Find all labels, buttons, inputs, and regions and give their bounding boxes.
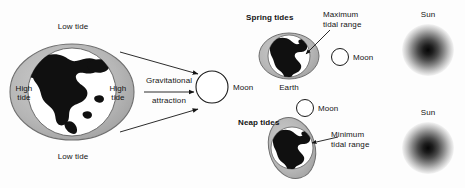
sun-sphere-neap <box>402 122 454 174</box>
label-high-tide-left-line2: tide <box>10 93 38 103</box>
sun-sphere-spring <box>402 24 454 76</box>
spring-earth-group <box>259 30 330 86</box>
label-moon-neap: Moon <box>318 104 338 114</box>
label-max-range-line1: Maximum <box>323 10 358 20</box>
label-low-tide-top: Low tide <box>42 22 104 32</box>
label-min-range-line1: Minimum <box>331 130 364 140</box>
label-max-range-line2: tidal range <box>323 20 361 30</box>
label-moon-left: Moon <box>233 83 253 93</box>
label-spring-tides-title: Spring tides <box>246 13 293 23</box>
label-sun-spring: Sun <box>410 10 446 20</box>
label-earth: Earth <box>268 83 310 93</box>
label-min-range-line2: tidal range <box>331 140 369 150</box>
moon-circle-left <box>196 71 228 103</box>
label-gravitational-line2: attraction <box>141 96 197 106</box>
moon-circle-spring <box>332 49 349 66</box>
gravity-arrow-top <box>120 52 198 74</box>
gravity-arrow-bottom <box>120 109 198 132</box>
label-moon-spring: Moon <box>353 53 373 63</box>
label-neap-tides-title: Neap tides <box>238 118 279 128</box>
label-high-tide-right-line2: tide <box>104 93 132 103</box>
label-sun-neap: Sun <box>410 108 446 118</box>
label-gravitational-line1: Gravitational <box>141 76 197 86</box>
label-low-tide-bottom: Low tide <box>42 152 104 162</box>
moon-circle-neap <box>297 100 314 117</box>
tides-diagram: Low tide Low tide High tide High tide Gr… <box>0 0 465 188</box>
